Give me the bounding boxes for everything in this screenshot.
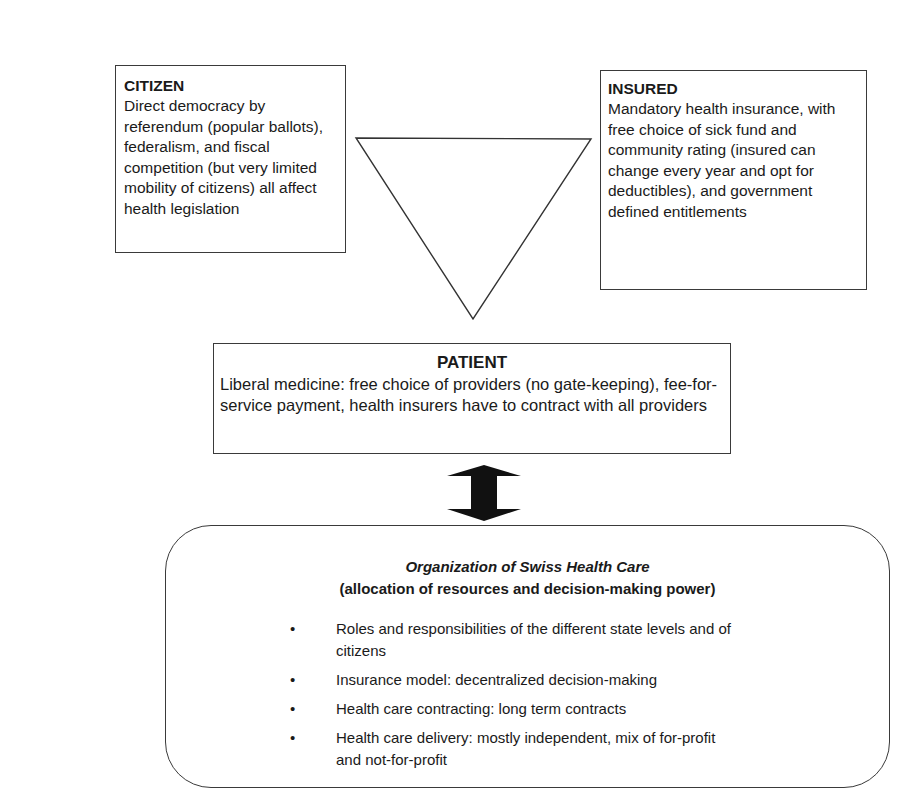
citizen-description: Direct democracy by referendum (popular … bbox=[124, 96, 339, 219]
bullet-icon: • bbox=[290, 727, 295, 749]
list-item: • Health care contracting: long term con… bbox=[176, 698, 736, 720]
organization-box: Organization of Swiss Health Care (alloc… bbox=[165, 525, 890, 788]
patient-title: PATIENT bbox=[220, 352, 724, 374]
organization-bullet-list: • Roles and responsibilities of the diff… bbox=[176, 618, 879, 771]
patient-box: PATIENT Liberal medicine: free choice of… bbox=[213, 343, 731, 454]
list-item: • Health care delivery: mostly independe… bbox=[176, 727, 736, 771]
insured-box: INSURED Mandatory health insurance, with… bbox=[600, 70, 867, 290]
bullet-text: Health care delivery: mostly independent… bbox=[336, 729, 715, 768]
list-item: • Insurance model: decentralized decisio… bbox=[176, 669, 736, 691]
bullet-text: Insurance model: decentralized decision-… bbox=[336, 671, 657, 688]
bullet-icon: • bbox=[290, 669, 295, 691]
organization-title: Organization of Swiss Health Care bbox=[176, 556, 879, 578]
list-item: • Roles and responsibilities of the diff… bbox=[176, 618, 736, 662]
organization-subtitle: (allocation of resources and decision-ma… bbox=[176, 578, 879, 600]
citizen-box: CITIZEN Direct democracy by referendum (… bbox=[115, 65, 346, 253]
insured-title: INSURED bbox=[608, 79, 860, 99]
bullet-text: Health care contracting: long term contr… bbox=[336, 700, 626, 717]
bullet-icon: • bbox=[290, 698, 295, 720]
bullet-icon: • bbox=[290, 618, 295, 640]
patient-description: Liberal medicine: free choice of provide… bbox=[220, 374, 724, 416]
insured-description: Mandatory health insurance, with free ch… bbox=[608, 99, 860, 222]
citizen-title: CITIZEN bbox=[124, 76, 339, 96]
bullet-text: Roles and responsibilities of the differ… bbox=[336, 620, 731, 659]
